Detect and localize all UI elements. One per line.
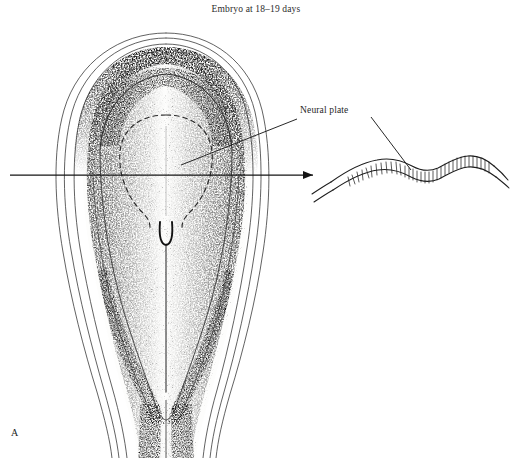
neural-plate-label: Neural plate bbox=[300, 105, 348, 115]
embryology-figure: Embryo at 18–19 days Neural plate A bbox=[0, 0, 512, 458]
annotation-layer bbox=[0, 0, 512, 458]
neural-plate-leader-right bbox=[371, 117, 411, 170]
neural-plate-leader-left bbox=[181, 119, 297, 165]
panel-letter: A bbox=[11, 427, 18, 438]
figure-title: Embryo at 18–19 days bbox=[0, 4, 512, 14]
